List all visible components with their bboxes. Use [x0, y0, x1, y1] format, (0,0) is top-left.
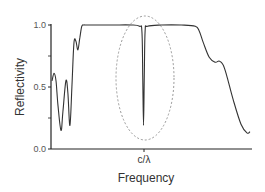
- reflectivity-chart: 1.0 0.5 0.0 c/λ Frequency Reflectivity: [0, 0, 265, 192]
- y-tick-label-1: 1.0: [33, 20, 46, 30]
- y-axis-title: Reflectivity: [13, 58, 27, 116]
- y-tick-label-0: 0.0: [33, 144, 46, 154]
- y-tick-label-0.5: 0.5: [33, 82, 46, 92]
- x-axis-title: Frequency: [118, 171, 175, 185]
- reflectivity-line: [52, 25, 250, 133]
- x-tick-label: c/λ: [138, 154, 151, 165]
- y-ticks: 1.0 0.5 0.0: [33, 20, 51, 154]
